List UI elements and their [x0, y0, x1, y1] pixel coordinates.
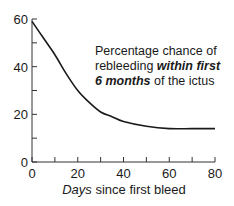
x-tick-label: 20 — [71, 166, 85, 181]
x-axis-label-rest: since first bleed — [92, 182, 186, 197]
chart-plot: 0204060020406080 — [0, 0, 234, 206]
annotation-emphasis: 6 months — [95, 74, 151, 88]
y-tick-label: 40 — [14, 60, 28, 75]
annotation-line-2: rebleeding within first — [95, 59, 234, 74]
annotation-text: of the ictus — [151, 74, 215, 88]
chart-annotation: Percentage chance of rebleeding within f… — [95, 44, 234, 89]
y-tick-label: 20 — [14, 107, 28, 122]
x-tick-label: 80 — [208, 166, 222, 181]
x-axis-label: Days since first bleed — [0, 182, 234, 197]
y-tick-label: 0 — [21, 155, 28, 170]
x-tick-label: 0 — [28, 166, 35, 181]
annotation-line-1: Percentage chance of — [95, 44, 234, 59]
y-tick-label: 60 — [14, 12, 28, 27]
axes: 0204060020406080 — [14, 12, 223, 181]
x-tick-label: 40 — [116, 166, 130, 181]
annotation-line-3: 6 months of the ictus — [95, 74, 234, 89]
x-tick-label: 60 — [162, 166, 176, 181]
annotation-text: rebleeding — [95, 59, 157, 73]
x-axis-label-italic: Days — [62, 182, 92, 197]
annotation-emphasis: within first — [157, 59, 220, 73]
